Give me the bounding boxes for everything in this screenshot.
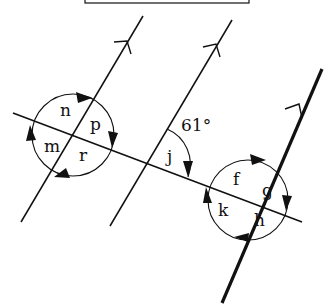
angle-label-p: p — [90, 114, 101, 134]
angle-label-r: r — [79, 145, 88, 165]
angle-label-h: h — [254, 210, 265, 230]
arrow-icon-line-3 — [285, 104, 302, 118]
arrowhead-icon-left-left — [26, 125, 36, 141]
arrowhead-icon-right-left — [203, 187, 212, 203]
transversal-line — [13, 113, 302, 222]
angle-label-j: j — [165, 146, 172, 166]
arrowhead-icon-right-bottom — [234, 233, 249, 242]
parallel-line-1 — [21, 16, 143, 222]
parallel-line-2 — [110, 20, 232, 226]
angle-label-m: m — [44, 136, 60, 156]
angle-label-f: f — [233, 169, 241, 189]
angle-label-k: k — [218, 200, 229, 220]
title-box — [85, 0, 249, 3]
arrowhead-icon-middle — [183, 161, 193, 177]
angle-label-n: n — [60, 100, 71, 120]
arrowhead-icon-left-top — [76, 92, 92, 103]
angle-label-61: 61° — [181, 115, 211, 135]
arrowhead-icon-left-right — [108, 131, 118, 148]
parallel-lines-diagram: n p m r 61° j f g k h — [0, 0, 330, 305]
angle-label-g: g — [262, 180, 273, 200]
